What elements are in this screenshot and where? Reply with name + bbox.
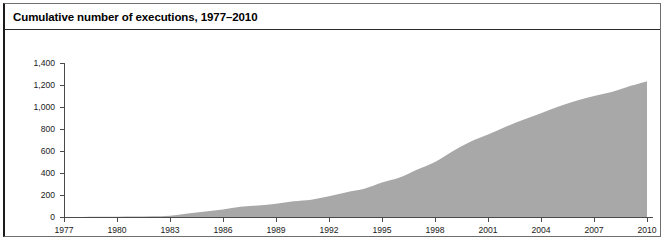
x-tick-label: 1995 xyxy=(372,225,391,235)
x-tick-label: 1986 xyxy=(213,225,232,235)
x-tick-label: 1977 xyxy=(54,225,73,235)
executions-area-series xyxy=(64,81,647,217)
x-tick-label: 1989 xyxy=(266,225,285,235)
x-axis-tick-labels: 1977198019831986198919921995199820012004… xyxy=(54,225,656,235)
y-tick-label: 1,400 xyxy=(33,58,55,68)
x-tick-label: 1998 xyxy=(425,225,444,235)
y-tick-label: 600 xyxy=(41,146,56,156)
x-tick-label: 2004 xyxy=(531,225,550,235)
x-tick-label: 2007 xyxy=(584,225,603,235)
x-tick-label: 1983 xyxy=(160,225,179,235)
x-axis-tick-marks xyxy=(64,217,647,222)
x-tick-label: 2010 xyxy=(637,225,656,235)
y-axis-tick-labels: 02004006008001,0001,2001,400 xyxy=(33,58,55,222)
x-tick-label: 1980 xyxy=(107,225,126,235)
y-tick-label: 400 xyxy=(41,168,56,178)
y-tick-label: 0 xyxy=(50,212,55,222)
area-chart-svg: 02004006008001,0001,2001,400 19771980198… xyxy=(0,0,664,241)
chart-figure: Cumulative number of executions, 1977–20… xyxy=(0,0,664,241)
plot-area: 02004006008001,0001,2001,400 19771980198… xyxy=(0,0,664,241)
x-tick-label: 1992 xyxy=(319,225,338,235)
x-tick-label: 2001 xyxy=(478,225,497,235)
y-tick-label: 1,000 xyxy=(33,102,55,112)
y-tick-label: 1,200 xyxy=(33,80,55,90)
y-tick-label: 200 xyxy=(41,190,56,200)
y-tick-label: 800 xyxy=(41,124,56,134)
y-axis-tick-marks xyxy=(60,63,64,217)
